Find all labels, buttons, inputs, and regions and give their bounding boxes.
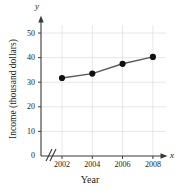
y-axis-variable-label: y bbox=[35, 1, 39, 11]
y-tick-label-40: 40 bbox=[19, 53, 35, 62]
y-tick-label-20: 20 bbox=[19, 102, 35, 111]
y-axis-title: Income (thousand dollars) bbox=[8, 19, 18, 159]
y-tick-label-30: 30 bbox=[19, 78, 35, 87]
x-tick-label-2006: 2006 bbox=[110, 160, 136, 169]
data-point bbox=[89, 71, 95, 77]
data-point bbox=[120, 61, 126, 67]
y-tick-label-50: 50 bbox=[19, 29, 35, 38]
horizontal-gridlines bbox=[41, 33, 166, 131]
x-axis bbox=[41, 153, 168, 158]
y-axis bbox=[38, 16, 43, 157]
vertical-gridlines bbox=[62, 25, 153, 156]
x-axis-variable-label: x bbox=[170, 150, 174, 160]
x-tick-label-2002: 2002 bbox=[49, 160, 75, 169]
data-point bbox=[150, 54, 156, 60]
y-tick-label-10: 10 bbox=[19, 127, 35, 136]
income-line-series bbox=[62, 57, 153, 78]
y-tick-label-0: 0 bbox=[19, 151, 35, 160]
x-tick-label-2008: 2008 bbox=[140, 160, 166, 169]
data-point bbox=[59, 75, 65, 81]
x-axis-title: Year bbox=[0, 174, 180, 185]
income-vs-year-chart: y x 0 10 20 30 40 50 2002 2004 2006 2008… bbox=[0, 0, 180, 191]
x-tick-label-2004: 2004 bbox=[79, 160, 105, 169]
